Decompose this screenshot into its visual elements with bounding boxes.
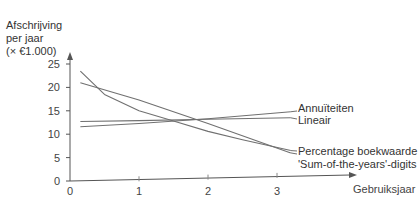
x-axis-label: Gebruiksjaar bbox=[353, 183, 416, 195]
x-tick-label: 1 bbox=[136, 185, 142, 197]
series-leader-line bbox=[291, 153, 297, 154]
y-tick-label: 5 bbox=[54, 152, 60, 164]
y-tick-label: 10 bbox=[48, 128, 60, 140]
series-labels: AnnuïteitenLineairPercentage boekwaarde'… bbox=[291, 102, 417, 170]
x-ticks: 0123 bbox=[67, 173, 280, 197]
y-tick-label: 0 bbox=[54, 175, 60, 187]
series-label: Annuïteiten bbox=[298, 102, 354, 114]
series-line-1 bbox=[80, 118, 290, 122]
x-axis-arrow-icon bbox=[349, 172, 357, 178]
x-tick-label: 3 bbox=[274, 185, 280, 197]
series-line-2 bbox=[80, 71, 290, 151]
series-leader-line bbox=[291, 118, 297, 119]
series-label: Percentage boekwaarde bbox=[298, 145, 417, 157]
series-leader-line bbox=[291, 111, 297, 112]
y-tick-label: 20 bbox=[48, 81, 60, 93]
y-axis-arrow-icon bbox=[67, 52, 73, 60]
depreciation-chart: 0510152025 0123 AnnuïteitenLineairPercen… bbox=[0, 0, 419, 213]
y-tick-label: 25 bbox=[48, 58, 60, 70]
series-label: 'Sum-of-the-years'-digits bbox=[298, 158, 417, 170]
series-lines bbox=[80, 71, 290, 153]
y-tick-label: 15 bbox=[48, 105, 60, 117]
series-label: Lineair bbox=[298, 114, 331, 126]
y-ticks: 0510152025 bbox=[48, 58, 70, 187]
x-axis bbox=[70, 175, 350, 181]
x-tick-label: 2 bbox=[205, 185, 211, 197]
x-tick-label: 0 bbox=[67, 185, 73, 197]
